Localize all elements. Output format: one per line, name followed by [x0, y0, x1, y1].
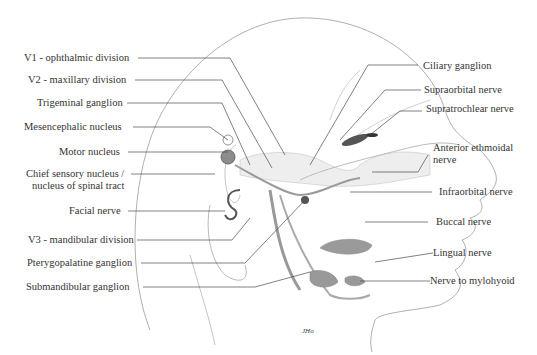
label-pterygopalatine-ganglion: Pterygopalatine ganglion: [27, 257, 132, 269]
artist-signature: JHo: [302, 327, 314, 335]
label-lingual-nerve: Lingual nerve: [433, 247, 492, 259]
label-submandibular-ganglion: Submandibular ganglion: [26, 281, 130, 293]
label-anterior-ethmoidal-nerve: nerve: [433, 154, 456, 166]
label-anterior-ethmoidal: Anterior ethmoidal: [433, 142, 513, 154]
neck-line: [190, 255, 215, 345]
label-ciliary-ganglion: Ciliary ganglion: [423, 60, 492, 72]
submandibular-gland: [310, 270, 338, 287]
label-supraorbital-nerve: Supraorbital nerve: [424, 84, 502, 96]
label-buccal-nerve: Buccal nerve: [436, 216, 491, 228]
tongue: [320, 239, 372, 254]
label-chief-sensory-nucleus: Chief sensory nucleus /: [26, 168, 124, 180]
facial-nerve-path: [225, 190, 240, 219]
label-v3-mandibular: V3 - mandibular division: [28, 234, 134, 246]
label-motor-nucleus: Motor nucleus: [59, 146, 120, 158]
label-trigeminal-ganglion: Trigeminal ganglion: [37, 97, 123, 109]
label-nerve-to-mylohyoid: Nerve to mylohyoid: [430, 275, 515, 287]
label-infraorbital-nerve: Infraorbital nerve: [439, 186, 513, 198]
label-nucleus-spinal-tract: nucleus of spinal tract: [32, 180, 124, 192]
label-supratrochlear-nerve: Supratrochlear nerve: [426, 103, 514, 115]
label-v1-ophthalmic: V1 - ophthalmic division: [24, 52, 129, 64]
label-mesencephalic-nucleus: Mesencephalic nucleus: [24, 121, 122, 133]
label-facial-nerve: Facial nerve: [69, 205, 121, 217]
label-v2-maxillary: V2 - maxillary division: [28, 74, 126, 86]
jaw-outline: [208, 205, 246, 280]
